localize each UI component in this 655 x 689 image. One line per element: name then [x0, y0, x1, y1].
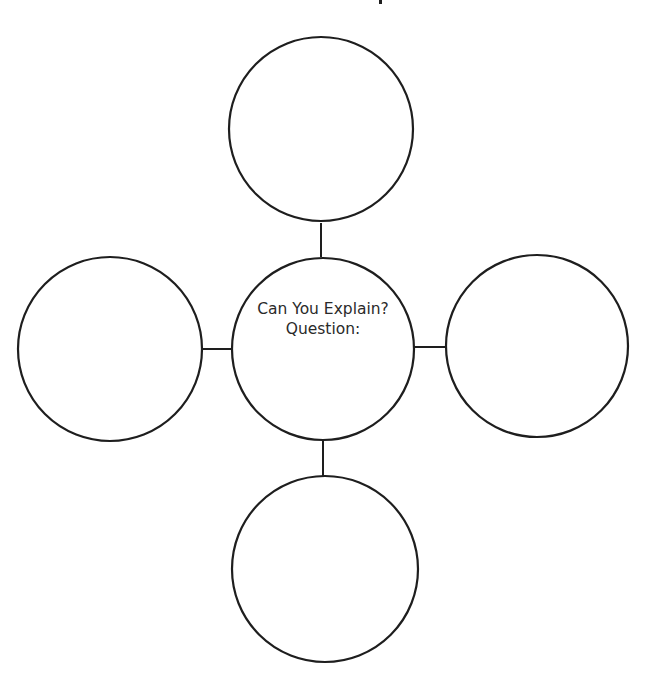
node-bottom[interactable]: [232, 476, 418, 662]
center-node-text: Can You Explain? Question:: [233, 299, 413, 339]
concept-web-diagram: [0, 0, 655, 689]
center-title: Can You Explain?: [233, 299, 413, 319]
node-right[interactable]: [446, 255, 628, 437]
node-center[interactable]: [232, 258, 414, 440]
node-left[interactable]: [18, 257, 202, 441]
title-fragment: [379, 0, 382, 4]
node-top[interactable]: [229, 37, 413, 221]
center-question-label: Question:: [233, 319, 413, 339]
